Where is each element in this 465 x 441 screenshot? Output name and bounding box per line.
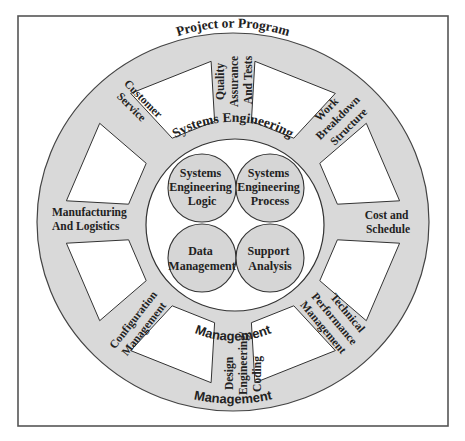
wheel-diagram: Systems Engineering Logic Systems Engine… (0, 0, 465, 441)
spoke-label-manufacturing-logistics: Manufacturing And Logistics (52, 206, 130, 233)
support-analysis-label: Support Analysis (247, 244, 292, 273)
circle-support-analysis (236, 224, 304, 292)
circle-data-management (168, 224, 236, 292)
spoke-label-quality-assurance: Quality Assurance And Tests (214, 53, 254, 107)
hub-circle (146, 139, 324, 311)
diagram-stage: Systems Engineering Logic Systems Engine… (0, 0, 465, 441)
